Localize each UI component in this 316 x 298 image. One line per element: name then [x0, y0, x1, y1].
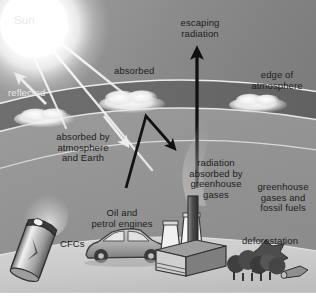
label-radiation-absorbed-by-greenhouse-gases: radiation absorbed by greenhouse gases: [182, 158, 250, 201]
car-wheel-front-hub: [98, 253, 104, 259]
label-absorbed: absorbed: [114, 66, 154, 77]
felled-log-end: [281, 272, 287, 279]
label-absorbed-by-atmosphere-and-earth: absorbed by atmosphere and Earth: [47, 132, 119, 164]
label-reflected: reflected: [8, 88, 45, 99]
label-oil-and-petrol-engines: Oil and petrol engines: [84, 208, 160, 229]
car-wheel-rear-hub: [148, 253, 154, 259]
greenhouse-effect-diagram: Sun reflected absorbed escaping radiatio…: [0, 0, 316, 298]
label-escaping-radiation: escaping radiation: [172, 18, 228, 39]
label-deforestation: deforestation: [228, 236, 312, 247]
label-greenhouse-gases-and-fossil-fuels: greenhouse gases and fossil fuels: [251, 182, 315, 214]
cooling-tower-left-rim: [163, 221, 178, 225]
label-edge-of-atmosphere: edge of atmosphere: [244, 70, 310, 91]
label-cfcs: CFCs: [60, 239, 85, 250]
label-sun: Sun: [14, 14, 35, 27]
bottom-frame-edge: [0, 293, 316, 298]
